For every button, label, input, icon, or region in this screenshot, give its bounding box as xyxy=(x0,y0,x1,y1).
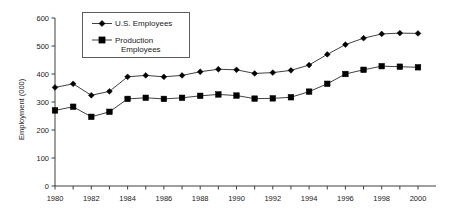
y-tick-label: 100 xyxy=(36,154,49,163)
data-point-diamond xyxy=(252,71,258,77)
data-point-square xyxy=(179,95,185,101)
data-point-square xyxy=(107,109,113,115)
data-point-square xyxy=(216,92,222,98)
data-point-square xyxy=(343,71,349,77)
chart-canvas: Employment (000) 0100200300400500600 198… xyxy=(0,0,463,224)
data-point-square xyxy=(324,81,330,87)
data-point-diamond xyxy=(70,81,76,87)
data-point-square xyxy=(143,95,149,101)
x-tick-label: 1984 xyxy=(119,194,136,203)
data-point-diamond xyxy=(215,66,221,72)
data-point-diamond xyxy=(361,35,367,41)
data-point-square xyxy=(361,67,367,73)
data-point-diamond xyxy=(379,31,385,37)
data-point-diamond xyxy=(179,73,185,79)
x-tick-label: 1990 xyxy=(228,194,245,203)
x-tick-label: 1994 xyxy=(301,194,318,203)
x-axis-ticks xyxy=(55,186,418,190)
legend-label-production-line2: Employees xyxy=(121,45,161,54)
data-point-diamond xyxy=(415,31,421,37)
data-point-square xyxy=(379,63,385,69)
y-tick-label: 400 xyxy=(36,70,49,79)
y-tick-label: 200 xyxy=(36,126,49,135)
data-point-square xyxy=(197,93,203,99)
x-tick-label: 1980 xyxy=(47,194,64,203)
data-point-square xyxy=(52,108,58,114)
data-point-diamond xyxy=(197,69,203,75)
x-tick-label: 1988 xyxy=(192,194,209,203)
legend-label-production-line1: Production xyxy=(115,36,153,45)
data-point-diamond xyxy=(143,73,149,79)
data-point-diamond xyxy=(288,67,294,73)
data-point-diamond xyxy=(270,70,276,76)
data-point-square xyxy=(161,96,167,102)
data-point-square xyxy=(397,64,403,70)
y-tick-label: 0 xyxy=(45,182,49,191)
y-axis-title: Employment (000) xyxy=(17,78,26,140)
employment-line-chart: Employment (000) 0100200300400500600 198… xyxy=(0,0,463,224)
x-tick-label: 1986 xyxy=(156,194,173,203)
y-axis-ticks: 0100200300400500600 xyxy=(36,14,55,191)
data-point-square xyxy=(234,93,240,99)
data-point-diamond xyxy=(161,74,167,80)
data-point-diamond xyxy=(88,92,94,98)
x-tick-label: 1998 xyxy=(373,194,390,203)
chart-legend: U.S. Employees Production Employees xyxy=(83,13,190,58)
square-marker-icon xyxy=(99,37,105,43)
data-point-diamond xyxy=(52,85,58,91)
y-tick-label: 300 xyxy=(36,98,49,107)
x-tick-label: 1982 xyxy=(83,194,100,203)
x-tick-label: 1996 xyxy=(337,194,354,203)
y-tick-label: 500 xyxy=(36,42,49,51)
legend-label-us-employees: U.S. Employees xyxy=(115,19,172,28)
data-point-square xyxy=(288,94,294,100)
data-point-diamond xyxy=(324,52,330,58)
data-point-square xyxy=(70,104,76,110)
data-point-square xyxy=(415,64,421,70)
y-axis-title-group: Employment (000) xyxy=(17,78,26,140)
data-point-diamond xyxy=(306,62,312,68)
data-point-square xyxy=(89,114,95,120)
data-point-square xyxy=(125,96,131,102)
data-point-diamond xyxy=(343,42,349,48)
data-point-diamond xyxy=(234,67,240,73)
y-tick-label: 600 xyxy=(36,14,49,23)
x-tick-label: 1992 xyxy=(264,194,281,203)
data-point-square xyxy=(252,96,258,102)
data-point-square xyxy=(270,96,276,102)
x-axis-labels: 1980198219841986198819901992199419961998… xyxy=(47,194,427,203)
data-point-square xyxy=(306,89,312,95)
x-tick-label: 2000 xyxy=(410,194,427,203)
data-point-diamond xyxy=(397,30,403,36)
